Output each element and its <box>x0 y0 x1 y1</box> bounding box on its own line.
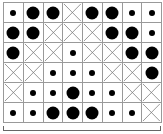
dot-cross-grid <box>3 2 162 123</box>
grid-cell-r4-c3 <box>44 63 64 83</box>
grid-cell-r2-c4 <box>63 23 83 43</box>
large-dot-icon <box>66 86 79 99</box>
grid-cell-r6-c4 <box>63 103 83 123</box>
small-dot-icon <box>10 10 16 16</box>
grid-cell-r1-c3 <box>44 3 64 23</box>
small-dot-icon <box>30 90 36 96</box>
grid-cell-r1-c8 <box>142 3 162 23</box>
large-dot-icon <box>46 106 59 119</box>
large-dot-icon <box>106 26 119 39</box>
small-dot-icon <box>30 110 36 116</box>
small-dot-icon <box>109 90 115 96</box>
cross-icon <box>4 63 23 82</box>
cross-icon <box>103 63 122 82</box>
grid-cell-r6-c3 <box>44 103 64 123</box>
cross-icon <box>4 83 23 102</box>
large-dot-icon <box>66 106 79 119</box>
grid-cell-r1-c2 <box>24 3 44 23</box>
grid-cell-r4-c1 <box>4 63 24 83</box>
cross-icon <box>63 23 82 42</box>
grid-cell-r3-c7 <box>123 43 143 63</box>
grid-cell-r5-c3 <box>44 83 64 103</box>
small-dot-icon <box>70 70 76 76</box>
grid-cell-r3-c3 <box>44 43 64 63</box>
grid-cell-r6-c2 <box>24 103 44 123</box>
grid-cell-r1-c7 <box>123 3 143 23</box>
grid-cell-r1-c4 <box>63 3 83 23</box>
grid-cell-r3-c4 <box>63 43 83 63</box>
large-dot-icon <box>27 26 40 39</box>
grid-cell-r6-c5 <box>83 103 103 123</box>
small-dot-icon <box>50 90 56 96</box>
grid-cell-r5-c2 <box>24 83 44 103</box>
cross-icon <box>123 83 142 102</box>
grid-cell-r5-c8 <box>142 83 162 103</box>
small-dot-icon <box>109 110 115 116</box>
cross-icon <box>142 83 161 102</box>
large-dot-icon <box>145 66 158 79</box>
grid-cell-r2-c5 <box>83 23 103 43</box>
grid-cell-r6-c7 <box>123 103 143 123</box>
small-dot-icon <box>89 70 95 76</box>
grid-cell-r3-c6 <box>103 43 123 63</box>
cross-icon <box>44 43 63 62</box>
grid-cell-r3-c8 <box>142 43 162 63</box>
cross-icon <box>142 103 161 122</box>
large-dot-icon <box>106 6 119 19</box>
grid-cell-r4-c7 <box>123 63 143 83</box>
grid-cell-r5-c6 <box>103 83 123 103</box>
grid-cell-r4-c6 <box>103 63 123 83</box>
small-dot-icon <box>129 10 135 16</box>
small-dot-icon <box>10 110 16 116</box>
cross-icon <box>44 23 63 42</box>
grid-cell-r6-c6 <box>103 103 123 123</box>
grid-cell-r1-c5 <box>83 3 103 23</box>
grid-cell-r2-c3 <box>44 23 64 43</box>
grid-cell-r5-c5 <box>83 83 103 103</box>
small-dot-icon <box>149 10 155 16</box>
large-dot-icon <box>7 46 20 59</box>
large-dot-icon <box>46 6 59 19</box>
grid-cell-r2-c6 <box>103 23 123 43</box>
small-dot-icon <box>89 90 95 96</box>
grid-cell-r6-c8 <box>142 103 162 123</box>
cross-icon <box>123 63 142 82</box>
grid-cell-r1-c6 <box>103 3 123 23</box>
small-dot-icon <box>129 110 135 116</box>
cross-icon <box>103 43 122 62</box>
small-dot-icon <box>70 50 76 56</box>
grid-cell-r4-c8 <box>142 63 162 83</box>
cross-icon <box>83 23 102 42</box>
cross-icon <box>24 63 43 82</box>
grid-cell-r5-c4 <box>63 83 83 103</box>
grid-cell-r2-c7 <box>123 23 143 43</box>
grid-cell-r5-c7 <box>123 83 143 103</box>
grid-cell-r3-c2 <box>24 43 44 63</box>
grid-cell-r3-c1 <box>4 43 24 63</box>
grid-cell-r2-c8 <box>142 23 162 43</box>
large-dot-icon <box>86 6 99 19</box>
small-dot-icon <box>50 70 56 76</box>
grid-cell-r4-c4 <box>63 63 83 83</box>
grid-cell-r5-c1 <box>4 83 24 103</box>
cross-icon <box>63 3 82 22</box>
grid-cell-r4-c5 <box>83 63 103 83</box>
large-dot-icon <box>27 6 40 19</box>
large-dot-icon <box>86 106 99 119</box>
grid-cell-r2-c1 <box>4 23 24 43</box>
grid-cell-r4-c2 <box>24 63 44 83</box>
grid-cell-r6-c1 <box>4 103 24 123</box>
grid-cell-r3-c5 <box>83 43 103 63</box>
small-dot-icon <box>149 30 155 36</box>
large-dot-icon <box>125 46 138 59</box>
grid-cell-r1-c1 <box>4 3 24 23</box>
cross-icon <box>24 43 43 62</box>
bottom-bracket <box>3 126 161 131</box>
large-dot-icon <box>7 26 20 39</box>
cross-icon <box>83 43 102 62</box>
large-dot-icon <box>125 26 138 39</box>
grid-cell-r2-c2 <box>24 23 44 43</box>
large-dot-icon <box>145 46 158 59</box>
